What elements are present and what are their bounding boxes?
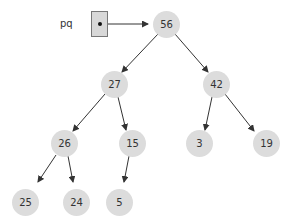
edge-15-5	[124, 156, 129, 182]
tree-node: 26	[51, 130, 78, 157]
tree-node: 24	[63, 189, 90, 216]
edge-27-26	[73, 94, 105, 131]
edge-26-24	[68, 156, 73, 182]
edge-26-25	[38, 155, 56, 182]
pointer-dot	[98, 22, 102, 26]
tree-node: 25	[12, 189, 39, 216]
edge-42-19	[225, 94, 254, 131]
tree-node: 56	[153, 11, 180, 38]
pointer-box	[91, 11, 108, 37]
pointer-label: pq	[60, 18, 73, 29]
tree-node: 5	[106, 189, 133, 216]
tree-node: 42	[203, 71, 230, 98]
edge-56-42	[175, 34, 208, 72]
tree-node: 27	[101, 71, 128, 98]
tree-node: 3	[186, 130, 213, 157]
edges-layer	[0, 0, 288, 222]
tree-node: 15	[119, 130, 146, 157]
edge-42-3	[205, 97, 212, 130]
edge-56-27	[122, 34, 158, 72]
edge-27-15	[118, 97, 126, 130]
tree-node: 19	[253, 130, 280, 157]
